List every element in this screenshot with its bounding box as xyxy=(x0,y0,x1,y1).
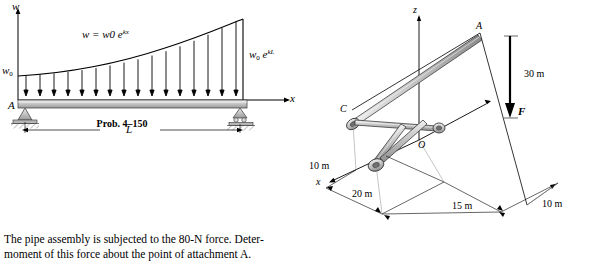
body-text-line-1: The pipe assembly is subjected to the 80… xyxy=(4,232,294,247)
problem-caption: Prob. 4–150 xyxy=(62,118,182,129)
label-x-axis: x xyxy=(290,92,295,104)
label-dim-15m: 15 m xyxy=(452,200,472,211)
label-dim-10m-left: 10 m xyxy=(309,160,329,171)
label-point-O: O xyxy=(418,139,425,150)
right-figure-pipe-assembly: z x A C O F 30 m 10 m 20 m 15 m 10 m xyxy=(296,0,600,236)
label-point-A-3d: A xyxy=(476,20,482,31)
label-dim-20m: 20 m xyxy=(352,188,372,199)
label-dim-30m: 30 m xyxy=(524,68,544,79)
label-force-F: F xyxy=(518,105,525,117)
label-w0-left: w0 xyxy=(2,64,13,78)
label-w-axis: w xyxy=(12,0,19,12)
problem-body-text: The pipe assembly is subjected to the 80… xyxy=(4,232,294,262)
label-load-function: w = w0 ekx xyxy=(82,28,129,40)
label-point-C: C xyxy=(340,103,347,114)
label-w0-right: w0 ekL xyxy=(249,48,274,62)
label-dim-10m-right: 10 m xyxy=(542,198,562,209)
label-point-A: A xyxy=(8,99,15,111)
label-x-axis-3d: x xyxy=(316,176,320,187)
label-z-axis: z xyxy=(413,4,417,15)
body-text-line-2: moment of this force about the point of … xyxy=(4,247,294,262)
